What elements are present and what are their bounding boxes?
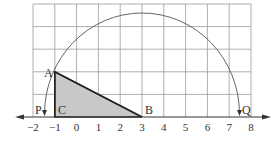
tick-labels: −2 −1 0 1 2 3 4 5 6 7 8: [27, 121, 254, 133]
axis-arrow-left-icon: [15, 115, 24, 120]
arrowhead-p-icon: [42, 110, 47, 116]
point-label-b: B: [145, 103, 153, 117]
tick-label: 8: [248, 121, 254, 133]
point-label-a: A: [44, 66, 53, 80]
tick-label: 4: [161, 121, 167, 133]
point-label-p: P: [35, 103, 42, 117]
point-label-q: Q: [242, 103, 251, 117]
tick-label: 5: [183, 121, 189, 133]
tick-label: 6: [205, 121, 211, 133]
tick-label: −1: [49, 121, 61, 133]
tick-label: 2: [117, 121, 123, 133]
tick-label: −2: [27, 121, 39, 133]
tick-label: 0: [74, 121, 80, 133]
axis-arrow-right-icon: [262, 115, 271, 120]
tick-label: 7: [226, 121, 232, 133]
tick-label: 3: [139, 121, 145, 133]
point-label-c: C: [58, 103, 66, 117]
tick-label: 1: [96, 121, 102, 133]
diagram-canvas: −2 −1 0 1 2 3 4 5 6 7 8 A C B P Q: [0, 0, 279, 146]
